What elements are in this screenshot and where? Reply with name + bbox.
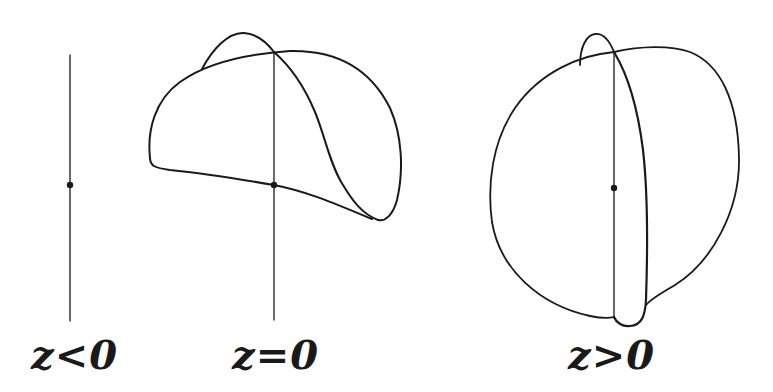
label-z-zero: z=0 — [232, 335, 319, 375]
right-sphere-arc — [614, 47, 739, 305]
label-z-negative: z<0 — [31, 335, 118, 375]
lens-fold-curve — [614, 52, 647, 326]
panel-z-zero — [149, 33, 401, 320]
axis-point — [611, 185, 617, 191]
left-sphere-arc — [490, 52, 614, 318]
panel-z-negative — [67, 55, 73, 321]
label-z-positive: z>0 — [568, 335, 655, 375]
axis-point — [67, 182, 73, 188]
axis-point — [271, 182, 277, 188]
panel-z-positive — [490, 34, 739, 326]
top-lobe-curve — [580, 34, 614, 65]
outer-arc-curve — [149, 51, 401, 220]
top-lobe-curve — [202, 33, 274, 69]
fold-curve — [274, 52, 378, 220]
bottom-edge-curve — [150, 158, 372, 219]
